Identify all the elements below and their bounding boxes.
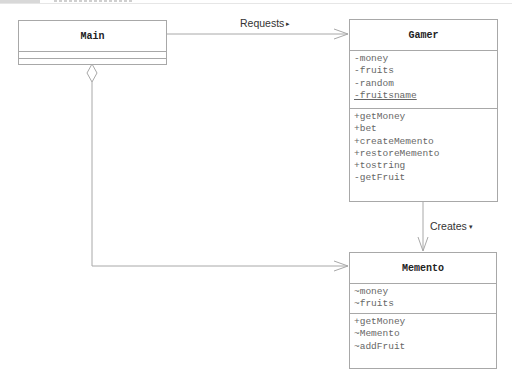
direction-triangle-icon: ▾	[469, 223, 473, 230]
attributes-compartment	[19, 52, 166, 59]
operation-tostring: +tostring	[354, 160, 497, 172]
attribute-fruits: ~fruits	[354, 298, 496, 310]
requests-association[interactable]	[166, 29, 348, 39]
operations-compartment: +getMoney +bet +createMemento +restoreMe…	[350, 109, 497, 187]
aggregation-main-memento[interactable]	[87, 64, 348, 271]
operation-memento: ~Memento	[354, 328, 496, 340]
operation-addfruit: ~addFruit	[354, 341, 496, 353]
attributes-compartment: ~money ~fruits	[350, 284, 496, 314]
attribute-money: ~money	[354, 286, 496, 298]
operation-bet: +bet	[354, 123, 497, 135]
class-memento[interactable]: Memento ~money ~fruits +getMoney ~Mement…	[349, 252, 497, 369]
attributes-compartment: -money -fruits -random -fruitsname	[350, 51, 497, 109]
aggregation-diamond-icon	[87, 64, 97, 82]
requests-label: Requests▸	[240, 17, 290, 29]
operation-restorememento: +restoreMemento	[354, 148, 497, 160]
operations-compartment	[19, 59, 166, 64]
operation-getfruit: -getFruit	[354, 172, 497, 184]
attribute-money: -money	[354, 53, 497, 65]
class-name: Memento	[350, 253, 496, 284]
operation-getmoney: +getMoney	[354, 316, 496, 328]
operation-getmoney: +getMoney	[354, 111, 497, 123]
attribute-random: -random	[354, 78, 497, 90]
class-gamer[interactable]: Gamer -money -fruits -random -fruitsname…	[349, 19, 498, 202]
class-name: Gamer	[350, 20, 497, 51]
attribute-fruitsname: -fruitsname	[354, 90, 497, 102]
attribute-fruits: -fruits	[354, 65, 497, 77]
operation-creatememento: +createMemento	[354, 136, 497, 148]
class-name: Main	[19, 21, 166, 52]
creates-dependency[interactable]	[418, 201, 428, 251]
class-main[interactable]: Main	[18, 20, 167, 65]
operations-compartment: +getMoney ~Memento ~addFruit	[350, 314, 496, 355]
creates-label: Creates▾	[430, 220, 473, 232]
direction-triangle-icon: ▸	[286, 20, 290, 27]
